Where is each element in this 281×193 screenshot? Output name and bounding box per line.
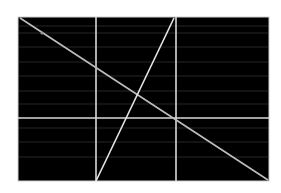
- line-diagram: [0, 0, 281, 193]
- point-marker: [41, 32, 44, 35]
